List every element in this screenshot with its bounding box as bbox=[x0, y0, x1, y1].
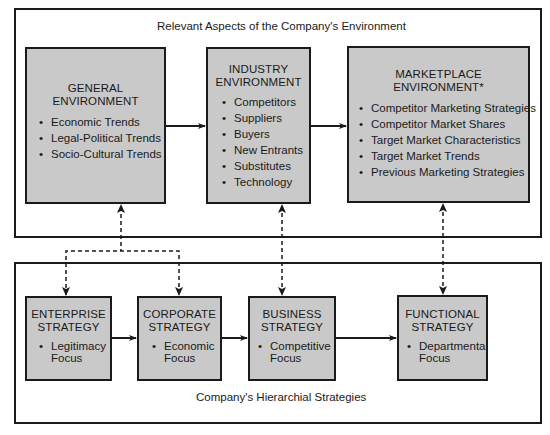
corporate-items: Economic Focus bbox=[152, 340, 220, 364]
business-strategy-box: BUSINESS STRATEGY Competitive Focus bbox=[248, 296, 336, 381]
marketplace-title-line1: MARKETPLACE bbox=[349, 68, 528, 81]
list-item-continuation: Focus bbox=[152, 352, 220, 364]
list-item: Departmental bbox=[407, 340, 486, 352]
industry-items: Competitors Suppliers Buyers New Entrant… bbox=[222, 94, 309, 190]
marketplace-environment-box: MARKETPLACE ENVIRONMENT* Competitor Mark… bbox=[347, 46, 530, 203]
functional-items: Departmental Focus bbox=[407, 340, 486, 364]
list-item: Competitor Market Shares bbox=[359, 116, 528, 132]
functional-strategy-box: FUNCTIONAL STRATEGY Departmental Focus bbox=[397, 295, 488, 381]
list-item: Legal-Political Trends bbox=[39, 130, 164, 146]
general-items: Economic Trends Legal-Political Trends S… bbox=[39, 114, 164, 162]
business-title-line1: BUSINESS bbox=[250, 308, 334, 321]
industry-environment-box: INDUSTRY ENVIRONMENT Competitors Supplie… bbox=[206, 47, 311, 204]
business-items: Competitive Focus bbox=[258, 340, 334, 364]
enterprise-title-line2: STRATEGY bbox=[27, 321, 110, 334]
list-item: New Entrants bbox=[222, 142, 309, 158]
list-item: Legitimacy bbox=[39, 340, 110, 352]
list-item-continuation: Focus bbox=[39, 352, 110, 364]
industry-title-line1: INDUSTRY bbox=[208, 63, 309, 76]
environment-caption: Relevant Aspects of the Company's Enviro… bbox=[157, 20, 406, 32]
general-environment-box: GENERAL ENVIRONMENT Economic Trends Lega… bbox=[25, 47, 166, 204]
list-item: Competitive bbox=[258, 340, 334, 352]
enterprise-items: Legitimacy Focus bbox=[39, 340, 110, 364]
list-item: Competitor Marketing Strategies bbox=[359, 100, 528, 116]
list-item: Socio-Cultural Trends bbox=[39, 146, 164, 162]
functional-title-line1: FUNCTIONAL bbox=[399, 308, 486, 321]
list-item: Competitors bbox=[222, 94, 309, 110]
enterprise-strategy-box: ENTERPRISE STRATEGY Legitimacy Focus bbox=[25, 296, 112, 381]
business-title-line2: STRATEGY bbox=[250, 321, 334, 334]
list-item: Target Market Trends bbox=[359, 148, 528, 164]
list-item: Suppliers bbox=[222, 110, 309, 126]
list-item: Target Market Characteristics bbox=[359, 132, 528, 148]
functional-title-line2: STRATEGY bbox=[399, 321, 486, 334]
list-item: Economic bbox=[152, 340, 220, 352]
list-item: Buyers bbox=[222, 126, 309, 142]
corporate-strategy-box: CORPORATE STRATEGY Economic Focus bbox=[137, 296, 222, 381]
list-item: Technology bbox=[222, 174, 309, 190]
enterprise-title-line1: ENTERPRISE bbox=[27, 308, 110, 321]
list-item: Economic Trends bbox=[39, 114, 164, 130]
list-item: Substitutes bbox=[222, 158, 309, 174]
marketplace-title-line2: ENVIRONMENT* bbox=[349, 81, 528, 94]
general-title-line2: ENVIRONMENT bbox=[27, 95, 164, 108]
strategies-caption: Company's Hierarchial Strategies bbox=[196, 391, 366, 403]
general-title-line1: GENERAL bbox=[27, 82, 164, 95]
list-item-continuation: Focus bbox=[258, 352, 334, 364]
list-item-continuation: Focus bbox=[407, 352, 486, 364]
corporate-title-line2: STRATEGY bbox=[139, 321, 220, 334]
list-item: Previous Marketing Strategies bbox=[359, 164, 528, 180]
marketplace-items: Competitor Marketing Strategies Competit… bbox=[359, 100, 528, 180]
industry-title-line2: ENVIRONMENT bbox=[208, 76, 309, 89]
corporate-title-line1: CORPORATE bbox=[139, 308, 220, 321]
